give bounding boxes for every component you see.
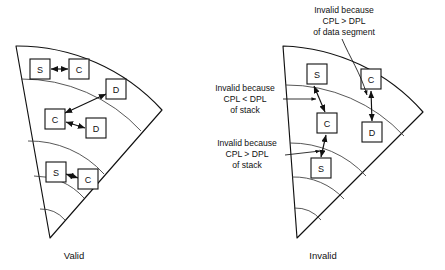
node-box-s-outer: S xyxy=(30,59,50,79)
valid-ring-divider-4 xyxy=(40,209,65,220)
annotation-line: CPL > DPL xyxy=(226,149,269,159)
node-box-d-lower: D xyxy=(86,118,106,138)
node-label: S xyxy=(318,164,324,174)
panel-invalid: S C C D S Invalid xyxy=(283,46,423,261)
node-label: C xyxy=(324,119,331,129)
annotation-stack-cpl-less-violation: Invalid because CPL < DPL of stack xyxy=(215,83,316,115)
node-label: S xyxy=(53,168,59,178)
arrow-c-to-d-upper xyxy=(65,94,106,113)
node-box-d-right: D xyxy=(362,122,382,142)
invalid-ring-divider-3 xyxy=(292,177,344,199)
annotation-line: CPL < DPL xyxy=(224,94,267,104)
node-label: S xyxy=(314,70,320,80)
node-box-d-upper: D xyxy=(106,79,126,99)
node-label: S xyxy=(37,65,43,75)
annotation-stack-cpl-greater-violation: Invalid because CPL > DPL of stack xyxy=(217,138,320,170)
node-label: D xyxy=(113,85,120,95)
node-label: D xyxy=(93,124,100,134)
privilege-ring-figure: S C D C D S C xyxy=(0,0,445,270)
arrow-s-to-c-inner xyxy=(66,174,78,178)
valid-nodes: S C D C D S C xyxy=(30,59,126,189)
arrow-c-to-d-lower xyxy=(66,122,85,128)
annotation-line: of stack xyxy=(232,160,262,170)
annotation-line: Invalid because xyxy=(314,5,374,15)
panel-caption-invalid: Invalid xyxy=(309,250,336,261)
node-label: D xyxy=(369,128,376,138)
node-box-s-upper: S xyxy=(307,64,327,84)
annotation-line: CPL > DPL xyxy=(323,16,366,26)
node-label: C xyxy=(368,75,375,85)
node-label: C xyxy=(85,175,92,185)
panel-valid: S C D C D S C xyxy=(16,46,162,261)
annotation-line: Invalid because xyxy=(215,83,275,93)
node-box-c-inner: C xyxy=(78,169,98,189)
invalid-nodes: S C C D S xyxy=(307,64,382,178)
annotation-line: Invalid because xyxy=(217,138,277,148)
annotation-line: of data segment xyxy=(313,27,375,37)
node-box-s-inner: S xyxy=(46,162,66,182)
node-box-c-middle: C xyxy=(317,113,337,133)
arrow-c-to-s-stack-cpl-greater xyxy=(321,135,326,157)
panel-caption-valid: Valid xyxy=(64,250,84,261)
node-box-c-outer: C xyxy=(69,59,89,79)
node-label: C xyxy=(76,65,83,75)
invalid-ring-divider-1 xyxy=(286,85,404,136)
node-label: C xyxy=(52,115,59,125)
node-box-c-middle: C xyxy=(45,109,65,129)
arrow-c-to-d-data-segment xyxy=(371,91,372,121)
node-box-s-lower: S xyxy=(311,158,331,178)
annotation-line: of stack xyxy=(230,105,260,115)
